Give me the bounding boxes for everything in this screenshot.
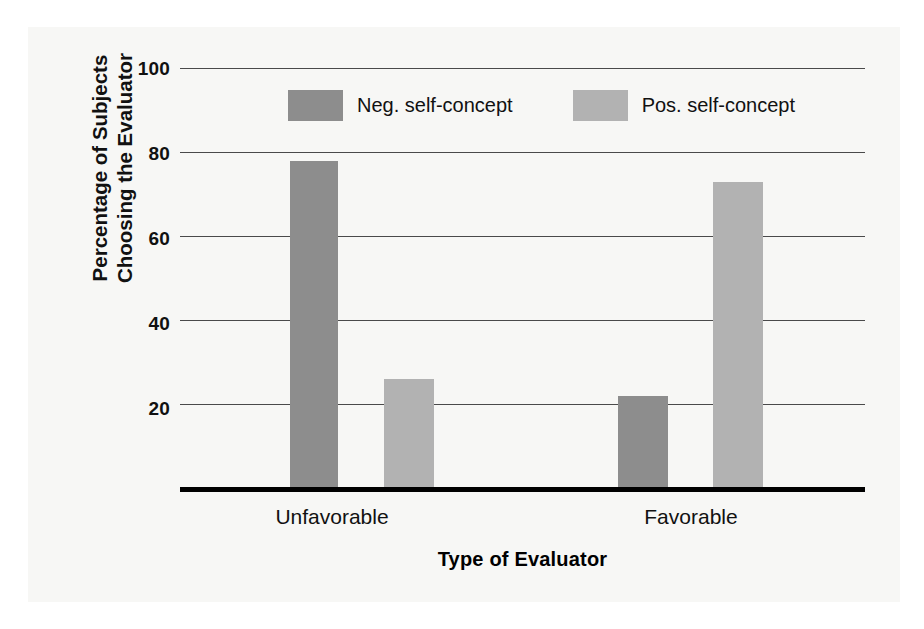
- figure-canvas: 100 80 60 40 20 Percentage of Subjects C…: [0, 0, 924, 629]
- x-tick-label-unfavorable: Unfavorable: [232, 505, 432, 529]
- legend-label-neg-self-concept: Neg. self-concept: [357, 94, 513, 117]
- legend: Neg. self-concept Pos. self-concept: [288, 90, 795, 121]
- x-axis-title: Type of Evaluator: [180, 548, 865, 571]
- bar-chart: 100 80 60 40 20 Percentage of Subjects C…: [0, 0, 924, 629]
- legend-item-pos-self-concept: Pos. self-concept: [573, 90, 795, 121]
- y-axis-title-line-2: Choosing the Evaluator: [112, 53, 137, 283]
- bar-favorable-pos-self-concept: [713, 182, 763, 488]
- bar-unfavorable-pos-self-concept: [384, 379, 434, 488]
- gridline-100: [180, 68, 865, 69]
- legend-swatch-neg-self-concept: [288, 90, 343, 121]
- gridline-80: [180, 152, 865, 153]
- legend-item-neg-self-concept: Neg. self-concept: [288, 90, 513, 121]
- legend-label-pos-self-concept: Pos. self-concept: [642, 94, 795, 117]
- y-tick-label-20: 20: [110, 398, 170, 420]
- y-axis-title-line-1: Percentage of Subjects: [87, 55, 112, 282]
- x-tick-label-favorable: Favorable: [591, 505, 791, 529]
- y-axis-title: Percentage of Subjects Choosing the Eval…: [84, 0, 140, 338]
- x-axis-line: [180, 487, 865, 492]
- bar-favorable-neg-self-concept: [618, 396, 668, 488]
- plot-area: [180, 60, 865, 488]
- legend-swatch-pos-self-concept: [573, 90, 628, 121]
- bar-unfavorable-neg-self-concept: [290, 161, 338, 488]
